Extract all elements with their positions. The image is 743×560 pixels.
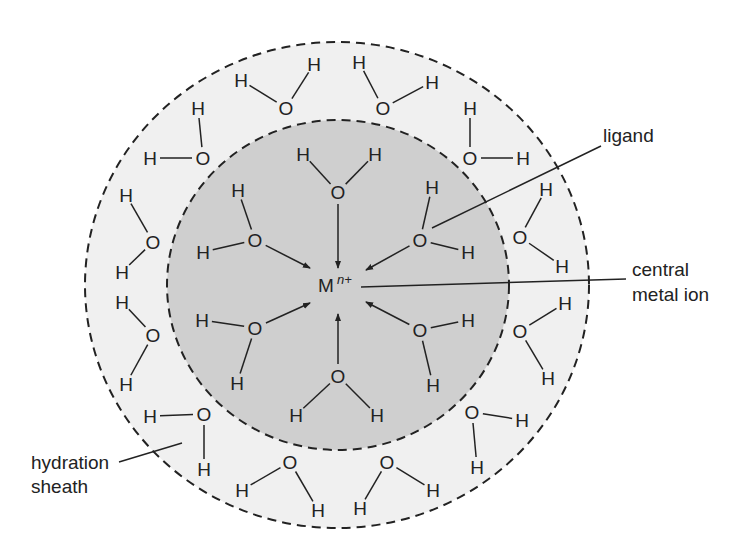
sheath-water-hydrogen-atom: H bbox=[515, 410, 529, 431]
hydration-sheath-label-line2: sheath bbox=[31, 476, 88, 497]
sheath-water-hydrogen-atom: H bbox=[143, 406, 157, 427]
sheath-water-oxygen-atom: O bbox=[279, 98, 294, 119]
sheath-water-hydrogen-atom: H bbox=[115, 262, 129, 283]
sheath-water-hydrogen-atom: H bbox=[191, 98, 205, 119]
ligand-label: ligand bbox=[603, 125, 654, 146]
sheath-water-oxygen-atom: O bbox=[196, 148, 211, 169]
sheath-water-hydrogen-atom: H bbox=[307, 54, 321, 75]
sheath-water-oxygen-atom: O bbox=[513, 321, 528, 342]
ligand-water-oxygen-atom: O bbox=[248, 230, 263, 251]
ligand-water-hydrogen-atom: H bbox=[370, 405, 384, 426]
sheath-water-hydrogen-atom: H bbox=[119, 374, 133, 395]
sheath-water-oxygen-atom: O bbox=[197, 404, 212, 425]
ligand-water-oxygen-atom: O bbox=[413, 320, 428, 341]
sheath-water-oxygen-atom: O bbox=[463, 148, 478, 169]
ligand-water-hydrogen-atom: H bbox=[461, 242, 475, 263]
ligand-water-hydrogen-atom: H bbox=[230, 373, 244, 394]
sheath-water-hydrogen-atom: H bbox=[234, 70, 248, 91]
ligand-water-oxygen-atom: O bbox=[331, 182, 346, 203]
sheath-water-oxygen-atom: O bbox=[380, 452, 395, 473]
sheath-water-oxygen-atom: O bbox=[376, 98, 391, 119]
sheath-water-oxygen-atom: O bbox=[146, 232, 161, 253]
ion-charge-superscript: n+ bbox=[337, 272, 352, 287]
sheath-water-hydrogen-atom: H bbox=[539, 179, 553, 200]
ligand-water-hydrogen-atom: H bbox=[461, 310, 475, 331]
sheath-water-hydrogen-atom: H bbox=[197, 459, 211, 480]
ligand-water-hydrogen-atom: H bbox=[425, 177, 439, 198]
sheath-water-hydrogen-atom: H bbox=[311, 500, 325, 521]
hydration-diagram: OHHOHHOHHOHHOHHOHHOHHOHHOHHOHHOHHOHHOHHO… bbox=[0, 0, 743, 560]
ligand-water-hydrogen-atom: H bbox=[195, 310, 209, 331]
ligand-water-oxygen-atom: O bbox=[248, 318, 263, 339]
sheath-water-hydrogen-atom: H bbox=[463, 98, 477, 119]
ligand-water-oxygen-atom: O bbox=[331, 366, 346, 387]
sheath-water-oxygen-atom: O bbox=[283, 452, 298, 473]
ligand-water-oxygen-atom: O bbox=[413, 230, 428, 251]
sheath-water-hydrogen-atom: H bbox=[516, 148, 530, 169]
sheath-water-hydrogen-atom: H bbox=[555, 256, 569, 277]
sheath-water-hydrogen-atom: H bbox=[115, 292, 129, 313]
sheath-water-hydrogen-atom: H bbox=[235, 480, 249, 501]
sheath-water-hydrogen-atom: H bbox=[119, 185, 133, 206]
ligand-water-hydrogen-atom: H bbox=[196, 242, 210, 263]
ligand-water-hydrogen-atom: H bbox=[368, 144, 382, 165]
sheath-water-oxygen-atom: O bbox=[465, 402, 480, 423]
sheath-water-oxygen-atom: O bbox=[513, 227, 528, 248]
sheath-water-hydrogen-atom: H bbox=[426, 480, 440, 501]
sheath-water-hydrogen-atom: H bbox=[352, 52, 366, 73]
sheath-water-hydrogen-atom: H bbox=[541, 368, 555, 389]
central-metal-ion: M bbox=[318, 275, 334, 296]
sheath-water-hydrogen-atom: H bbox=[425, 72, 439, 93]
sheath-water-oxygen-atom: O bbox=[146, 325, 161, 346]
sheath-water-hydrogen-atom: H bbox=[470, 457, 484, 478]
sheath-water-hydrogen-atom: H bbox=[558, 293, 572, 314]
ligand-water-hydrogen-atom: H bbox=[296, 144, 310, 165]
central-metal-ion-label-line2: metal ion bbox=[632, 284, 709, 305]
ligand-water-hydrogen-atom: H bbox=[426, 375, 440, 396]
sheath-water-hydrogen-atom: H bbox=[143, 148, 157, 169]
sheath-water-hydrogen-atom: H bbox=[353, 498, 367, 519]
hydration-sheath-label-line1: hydration bbox=[31, 452, 109, 473]
ligand-water-hydrogen-atom: H bbox=[289, 405, 303, 426]
central-metal-ion-label-line1: central bbox=[632, 259, 689, 280]
ligand-water-hydrogen-atom: H bbox=[231, 180, 245, 201]
